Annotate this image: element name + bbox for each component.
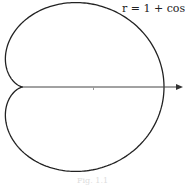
- cardioid-diagram: [0, 0, 185, 185]
- axis-arrowhead-icon: [176, 84, 183, 90]
- equation-label: r = 1 + cosθ: [122, 2, 185, 15]
- figure-caption: Fig. 1.1: [0, 176, 185, 185]
